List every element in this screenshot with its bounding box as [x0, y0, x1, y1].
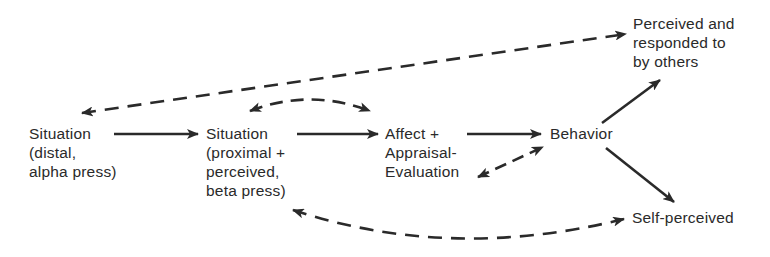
node-line: perceived, [206, 162, 286, 181]
node-line: Affect + [385, 124, 459, 143]
node-situation-proximal: Situation (proximal + perceived, beta pr… [206, 124, 286, 200]
arrow-behavior-to-others [602, 80, 660, 123]
node-line: Appraisal- [385, 143, 459, 162]
node-line: Evaluation [385, 162, 459, 181]
node-line: beta press) [206, 181, 286, 200]
node-line: Situation [206, 124, 286, 143]
dashed-arrow-proximal-self [293, 210, 624, 238]
dashed-arrow-distal-others [82, 34, 626, 113]
node-line: Behavior [550, 124, 613, 143]
node-situation-distal: Situation (distal, alpha press) [29, 124, 117, 181]
node-perceived-by-others: Perceived and responded to by others [633, 14, 735, 71]
node-behavior: Behavior [550, 124, 613, 143]
node-line: Perceived and [633, 14, 735, 33]
arrow-behavior-to-self [606, 148, 674, 202]
node-line: by others [633, 52, 735, 71]
node-line: alpha press) [29, 162, 117, 181]
node-line: (distal, [29, 143, 117, 162]
node-line: Situation [29, 124, 117, 143]
node-line: Self-perceived [632, 208, 734, 227]
node-line: responded to [633, 33, 735, 52]
dashed-arrow-proximal-affect [250, 100, 370, 112]
node-affect-appraisal: Affect + Appraisal- Evaluation [385, 124, 459, 181]
node-line: (proximal + [206, 143, 286, 162]
node-self-perceived: Self-perceived [632, 208, 734, 227]
dashed-arrow-affect-behavior [478, 147, 543, 177]
